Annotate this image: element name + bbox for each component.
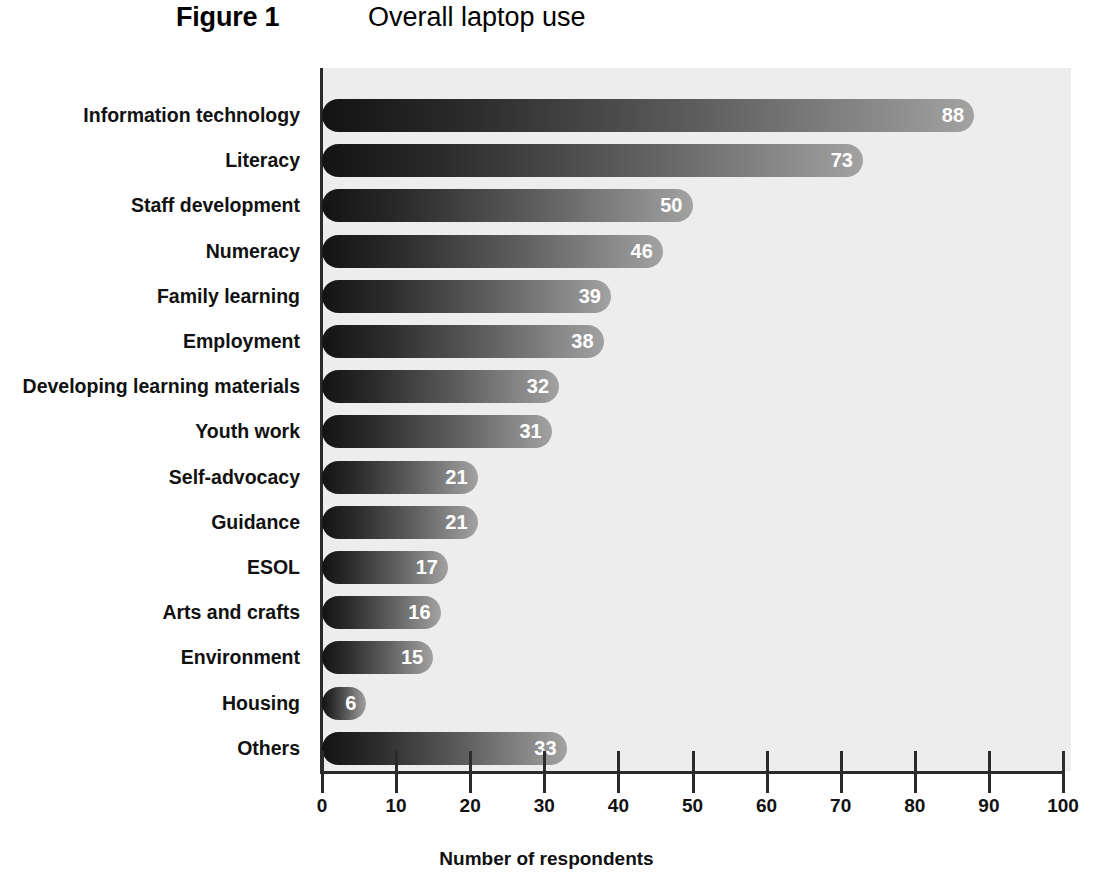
bar-row: Self-advocacy21	[0, 455, 1093, 500]
bar-track: 16	[322, 590, 441, 635]
x-tick-label: 0	[292, 795, 352, 817]
bar-value-label: 39	[579, 280, 601, 313]
bar-row: Employment38	[0, 319, 1093, 364]
x-tick-mark	[914, 751, 917, 793]
x-tick-mark	[321, 751, 324, 793]
x-tick-mark	[988, 751, 991, 793]
bar-row: Guidance21	[0, 500, 1093, 545]
x-tick-mark	[692, 751, 695, 793]
x-tick-mark	[543, 751, 546, 793]
bar-row: Staff development50	[0, 183, 1093, 228]
x-tick-label: 10	[366, 795, 426, 817]
bar-value-label: 21	[445, 506, 467, 539]
bar-category-label: Employment	[0, 319, 300, 364]
bar-category-label: ESOL	[0, 545, 300, 590]
bar-category-label: Youth work	[0, 409, 300, 454]
bar[interactable]	[322, 415, 552, 448]
bar-category-label: Environment	[0, 635, 300, 680]
bar-value-label: 46	[631, 235, 653, 268]
bar-chart: Information technology88Literacy73Staff …	[0, 0, 1093, 884]
x-tick-mark	[469, 751, 472, 793]
x-tick-label: 30	[514, 795, 574, 817]
bar-row: Family learning39	[0, 274, 1093, 319]
bar[interactable]	[322, 235, 663, 268]
bar-track: 33	[322, 726, 567, 771]
bar-track: 38	[322, 319, 604, 364]
bar-row: Others33	[0, 726, 1093, 771]
bar-category-label: Others	[0, 726, 300, 771]
bar-track: 73	[322, 138, 863, 183]
bar-track: 17	[322, 545, 448, 590]
x-tick-label: 80	[885, 795, 945, 817]
x-tick-label: 20	[440, 795, 500, 817]
bar[interactable]	[322, 99, 974, 132]
x-tick-mark	[766, 751, 769, 793]
bar-row: Arts and crafts16	[0, 590, 1093, 635]
bar-value-label: 32	[527, 370, 549, 403]
bar-track: 50	[322, 183, 693, 228]
bar-row: Numeracy46	[0, 229, 1093, 274]
bar-category-label: Housing	[0, 681, 300, 726]
bar[interactable]	[322, 370, 559, 403]
bar-value-label: 50	[660, 189, 682, 222]
bar-category-label: Numeracy	[0, 229, 300, 274]
x-tick-mark	[395, 751, 398, 793]
bar[interactable]	[322, 280, 611, 313]
x-tick-mark	[617, 751, 620, 793]
bar[interactable]	[322, 687, 366, 720]
bar[interactable]	[322, 189, 693, 222]
bar-category-label: Self-advocacy	[0, 455, 300, 500]
bar-row: Youth work31	[0, 409, 1093, 454]
bar-row: Housing6	[0, 681, 1093, 726]
bar-row: ESOL17	[0, 545, 1093, 590]
x-tick-label: 100	[1033, 795, 1093, 817]
x-tick-label: 40	[588, 795, 648, 817]
bar-row: Information technology88	[0, 93, 1093, 138]
x-tick-label: 90	[959, 795, 1019, 817]
bar-track: 32	[322, 364, 559, 409]
bar-track: 21	[322, 455, 478, 500]
bar[interactable]	[322, 325, 604, 358]
x-axis-title: Number of respondents	[0, 848, 1093, 870]
bar-row: Environment15	[0, 635, 1093, 680]
bar-category-label: Information technology	[0, 93, 300, 138]
bar-track: 15	[322, 635, 433, 680]
bar-category-label: Staff development	[0, 183, 300, 228]
bar-value-label: 31	[519, 415, 541, 448]
bar-track: 46	[322, 229, 663, 274]
bar-category-label: Developing learning materials	[0, 364, 300, 409]
bar[interactable]	[322, 732, 567, 765]
bar-track: 88	[322, 93, 974, 138]
bar-value-label: 38	[571, 325, 593, 358]
x-tick-mark	[840, 751, 843, 793]
bar-category-label: Arts and crafts	[0, 590, 300, 635]
bar-track: 6	[322, 681, 366, 726]
bar[interactable]	[322, 144, 863, 177]
bar-category-label: Literacy	[0, 138, 300, 183]
bar-track: 21	[322, 500, 478, 545]
bar-value-label: 17	[416, 551, 438, 584]
bar-value-label: 16	[408, 596, 430, 629]
bar-row: Literacy73	[0, 138, 1093, 183]
x-tick-mark	[1062, 751, 1065, 793]
bar-category-label: Family learning	[0, 274, 300, 319]
x-tick-label: 50	[663, 795, 723, 817]
bar-value-label: 21	[445, 461, 467, 494]
x-tick-label: 60	[737, 795, 797, 817]
bar-value-label: 15	[401, 641, 423, 674]
x-tick-label: 70	[811, 795, 871, 817]
bar-value-label: 6	[345, 687, 356, 720]
bar-value-label: 73	[831, 144, 853, 177]
bar-track: 31	[322, 409, 552, 454]
bar-category-label: Guidance	[0, 500, 300, 545]
bar-track: 39	[322, 274, 611, 319]
bar-value-label: 88	[942, 99, 964, 132]
bar-row: Developing learning materials32	[0, 364, 1093, 409]
